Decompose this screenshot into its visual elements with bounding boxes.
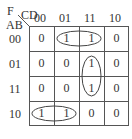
kmap-cell: 0 (104, 26, 129, 51)
column-header: 10 (109, 12, 121, 24)
column-header: 01 (59, 12, 71, 24)
kmap-cell: 1 (79, 76, 104, 101)
kmap-cell: 1 (79, 26, 104, 51)
kmap-cell: 0 (79, 101, 104, 126)
kmap-cell: 0 (104, 101, 129, 126)
karnaugh-map-grid: 0110001000101100 (29, 26, 129, 126)
kmap-cell: 1 (54, 101, 79, 126)
row-header: 11 (9, 83, 21, 95)
kmap-cell: 1 (79, 51, 104, 76)
kmap-cell: 1 (54, 26, 79, 51)
kmap-cell: 0 (29, 76, 54, 101)
kmap-cell: 1 (29, 101, 54, 126)
function-label: F (7, 5, 14, 17)
row-header: 10 (9, 108, 21, 120)
kmap-cell: 0 (29, 26, 54, 51)
row-header: 00 (9, 33, 21, 45)
row-header: 01 (9, 58, 21, 70)
kmap-cell: 0 (104, 76, 129, 101)
kmap-cell: 0 (29, 51, 54, 76)
column-header: 00 (34, 12, 46, 24)
kmap-cell: 0 (54, 76, 79, 101)
row-variables-label: AB (6, 19, 23, 31)
kmap-cell: 0 (54, 51, 79, 76)
kmap-cell: 0 (104, 51, 129, 76)
column-header: 11 (84, 12, 96, 24)
